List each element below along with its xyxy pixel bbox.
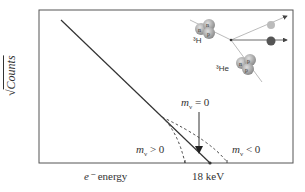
svg-text:p: p bbox=[247, 58, 250, 64]
neutrino-particle bbox=[267, 21, 275, 29]
svg-text:n: n bbox=[239, 61, 242, 67]
plot-frame bbox=[39, 10, 293, 163]
electron-particle bbox=[267, 37, 276, 46]
parent-nucleus-label: ³H bbox=[193, 36, 201, 45]
svg-text:n: n bbox=[198, 27, 201, 33]
y-axis-label: √Counts bbox=[4, 55, 19, 96]
curve-m-zero bbox=[61, 20, 210, 163]
label-m-zero: mν = 0 bbox=[181, 96, 209, 111]
label-m-positive: mν > 0 bbox=[136, 143, 164, 158]
endpoint-dot bbox=[208, 161, 211, 164]
plot-graphics: n n p n p p bbox=[0, 0, 305, 192]
curve-m-positive bbox=[162, 117, 185, 163]
decay-inset: n n p n p p bbox=[190, 16, 287, 82]
svg-text:n: n bbox=[206, 22, 209, 28]
svg-text:p: p bbox=[207, 31, 210, 37]
svg-text:p: p bbox=[245, 67, 248, 73]
curve-m-negative bbox=[162, 117, 227, 162]
daughter-nucleus-label: ³He bbox=[216, 64, 229, 73]
x-axis-label: e⁻ energy bbox=[84, 170, 127, 183]
kurie-plot-diagram: n n p n p p √Counts ³H ³He mν = 0 mν > 0… bbox=[0, 0, 305, 192]
label-m-negative: mν < 0 bbox=[232, 143, 260, 158]
endpoint-label: 18 keV bbox=[192, 170, 224, 182]
helium-nucleus: n p p bbox=[236, 54, 256, 75]
